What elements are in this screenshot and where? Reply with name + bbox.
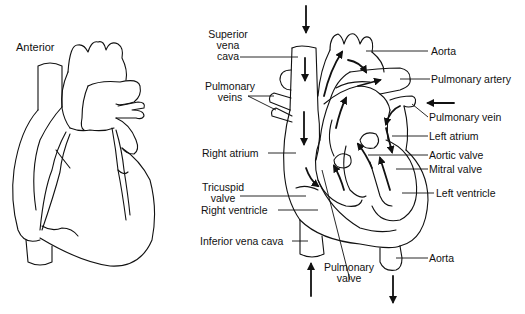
label-mitral-valve: Mitral valve — [429, 164, 482, 175]
cross-section-heart-drawing — [270, 34, 429, 271]
label-superior-vena-cava: Superior vena cava — [203, 29, 253, 62]
label-pulmonary-veins: Pulmonary veins — [202, 81, 258, 103]
label-tricuspid-valve: Tricuspid valve — [200, 182, 246, 204]
label-pulmonary-valve: Pulmonary valve — [322, 262, 376, 284]
label-line: cava — [203, 51, 253, 62]
label-aorta-top: Aorta — [431, 46, 456, 57]
label-right-atrium: Right atrium — [202, 148, 259, 159]
label-aortic-valve: Aortic valve — [429, 150, 483, 161]
label-left-atrium: Left atrium — [429, 131, 479, 142]
label-right-ventricle: Right ventricle — [201, 205, 268, 216]
label-pulmonary-artery: Pulmonary artery — [431, 74, 511, 85]
label-left-ventricle: Left ventricle — [436, 188, 496, 199]
label-inferior-vena-cava: Inferior vena cava — [200, 236, 283, 247]
label-line: valve — [200, 193, 246, 204]
anterior-heart-drawing — [13, 42, 155, 266]
label-pulmonary-vein: Pulmonary vein — [429, 112, 501, 123]
label-line: valve — [322, 273, 376, 284]
anterior-title: Anterior — [16, 42, 55, 53]
label-aorta-bottom: Aorta — [429, 253, 454, 264]
label-line: veins — [202, 92, 258, 103]
